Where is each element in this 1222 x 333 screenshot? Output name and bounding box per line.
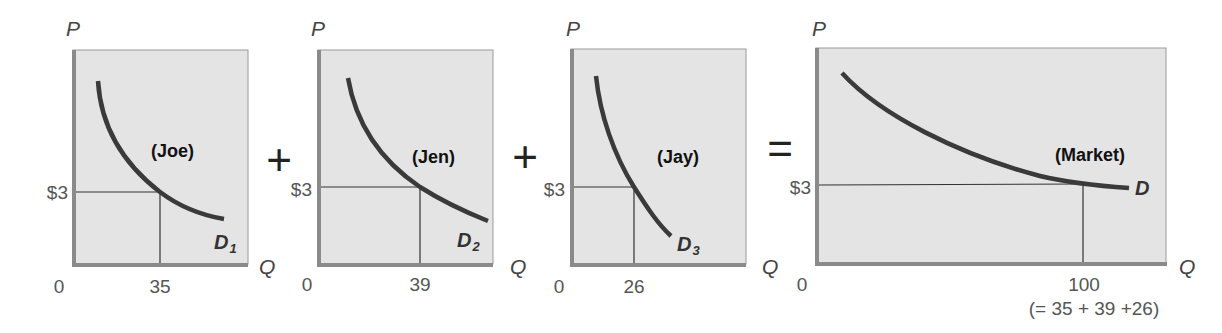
x-axis-label: Q (510, 255, 526, 278)
y-axis-label: P (66, 17, 80, 40)
y-axis-label: P (812, 17, 826, 40)
x-axis-label: Q (259, 255, 275, 278)
origin-tick: 0 (302, 274, 313, 295)
series-title: (Jay) (657, 147, 699, 167)
price-tick: $3 (291, 179, 312, 200)
y-axis-label: P (311, 17, 325, 40)
equals-operator: = (767, 124, 793, 173)
price-tick: $3 (544, 179, 565, 200)
origin-tick: 0 (797, 274, 808, 295)
panel-joe: P (Joe) D1 $3 0 35 Q (47, 17, 275, 297)
origin-tick: 0 (54, 276, 65, 297)
price-tick: $3 (47, 182, 68, 203)
series-title: (Market) (1055, 145, 1125, 165)
quantity-tick: 100 (1068, 274, 1100, 295)
series-title: (Jen) (412, 147, 455, 167)
panel-jay: P (Jay) D3 $3 0 26 Q (544, 17, 778, 297)
plus-operator: + (266, 135, 292, 184)
quantity-tick: 26 (623, 276, 644, 297)
quantity-tick: 35 (149, 276, 170, 297)
panel-jen: P (Jen) D2 $3 0 39 Q (291, 17, 526, 295)
origin-tick: 0 (554, 276, 565, 297)
series-title: (Joe) (151, 141, 194, 161)
x-axis-label: Q (762, 255, 778, 278)
market-demand-figure: P (Joe) D1 $3 0 35 Q + P (Jen) D2 $3 0 3… (0, 0, 1222, 333)
panel-market: P (Market) D $3 0 100 (= 35 + 39 +26) Q (790, 17, 1195, 319)
x-axis-label: Q (1179, 255, 1195, 278)
sum-annotation: (= 35 + 39 +26) (1029, 298, 1159, 319)
y-axis-label: P (566, 17, 580, 40)
plus-operator: + (512, 132, 538, 181)
curve-label: D (1135, 177, 1149, 199)
price-tick: $3 (790, 177, 811, 198)
quantity-tick: 39 (409, 274, 430, 295)
